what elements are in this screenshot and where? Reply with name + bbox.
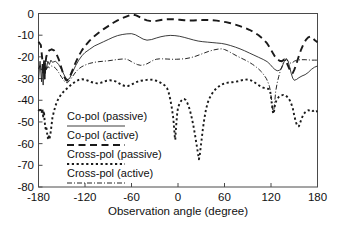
x-tick-label: -120 — [73, 191, 96, 203]
antenna-pattern-chart: 0-10-20-30-40-50-60-70-80 -180-120-60060… — [0, 0, 338, 230]
y-tick-label: 0 — [28, 8, 34, 20]
x-tick-label: 0 — [175, 191, 181, 203]
y-tick-label: -10 — [17, 29, 34, 41]
figure-background — [0, 0, 338, 230]
x-tick-label: 180 — [308, 191, 327, 203]
x-tick-label: -60 — [123, 191, 140, 203]
y-tick-label: -50 — [17, 116, 34, 128]
y-tick-label: -20 — [17, 51, 34, 63]
y-tick-label: -70 — [17, 159, 34, 171]
legend-label: Cross-pol (passive) — [67, 148, 162, 160]
figure-container: 0-10-20-30-40-50-60-70-80 -180-120-60060… — [0, 0, 338, 230]
y-tick-label: -60 — [17, 138, 34, 150]
y-tick-label: -40 — [17, 94, 34, 106]
x-axis-title: Observation angle (degree) — [108, 205, 248, 217]
legend-label: Co-pol (active) — [67, 129, 139, 141]
x-tick-label: 60 — [218, 191, 231, 203]
legend-label: Co-pol (passive) — [67, 110, 147, 122]
x-tick-label: 120 — [261, 191, 280, 203]
x-tick-label: -180 — [27, 191, 50, 203]
legend-label: Cross-pol (active) — [67, 167, 153, 179]
y-axis-tick-labels: 0-10-20-30-40-50-60-70-80 — [17, 8, 34, 194]
y-tick-label: -30 — [17, 73, 34, 85]
